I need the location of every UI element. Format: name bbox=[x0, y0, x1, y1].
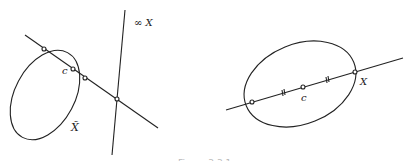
label-infinity-x: ∞ X bbox=[134, 17, 154, 28]
figure-caption: Figure 3.3.1 bbox=[178, 158, 231, 161]
ellipse-x-tilde bbox=[0, 39, 94, 152]
ellipse-x bbox=[231, 25, 369, 143]
intersection-point bbox=[353, 70, 357, 74]
right-panel bbox=[226, 25, 403, 143]
label-x: X bbox=[359, 76, 368, 87]
tick-mark bbox=[326, 77, 327, 83]
tick-mark bbox=[284, 89, 285, 95]
label-c-left: c bbox=[62, 65, 68, 76]
intersection-point bbox=[83, 76, 87, 80]
left-panel bbox=[0, 10, 158, 155]
intersection-point bbox=[42, 47, 46, 51]
tick-mark bbox=[328, 76, 329, 82]
center-point-c bbox=[301, 85, 305, 89]
center-point-c bbox=[71, 67, 75, 71]
infinity-intersection-point bbox=[115, 97, 119, 101]
intersection-point bbox=[250, 100, 254, 104]
label-x-tilde: X̃ bbox=[70, 121, 80, 134]
figure-canvas: c ∞ X X̃ c X Figure 3.3.1 bbox=[0, 0, 411, 161]
label-c-right: c bbox=[301, 92, 307, 103]
line-at-infinity bbox=[112, 10, 125, 155]
tick-mark bbox=[282, 90, 283, 96]
